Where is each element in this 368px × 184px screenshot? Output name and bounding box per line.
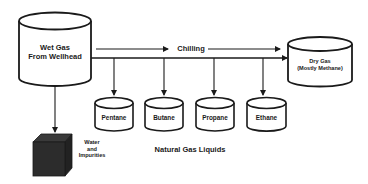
dry-gas-label-line2: (Mostly Methane) <box>288 65 352 72</box>
chilling-label: Chilling <box>176 44 206 53</box>
pentane-label: Pentane <box>95 114 133 122</box>
water-impurities-label: Water and Impurities <box>74 139 110 159</box>
butane-label: Butane <box>145 114 183 122</box>
wet-gas-label-line2: From Wellhead <box>19 52 91 61</box>
water-label-line1: Water <box>74 139 110 146</box>
natural-gas-liquids-label: Natural Gas Liquids <box>140 145 240 154</box>
water-impurities-cube-icon <box>33 134 72 176</box>
wet-gas-label: Wet Gas From Wellhead <box>19 43 91 62</box>
ethane-label: Ethane <box>247 114 286 122</box>
wet-gas-label-line1: Wet Gas <box>19 43 91 52</box>
dry-gas-label: Dry Gas (Mostly Methane) <box>288 58 352 72</box>
diagram-canvas <box>0 0 368 184</box>
dry-gas-label-line1: Dry Gas <box>288 58 352 65</box>
water-label-line3: Impurities <box>74 152 110 159</box>
water-label-line2: and <box>74 146 110 153</box>
propane-label: Propane <box>196 114 234 122</box>
